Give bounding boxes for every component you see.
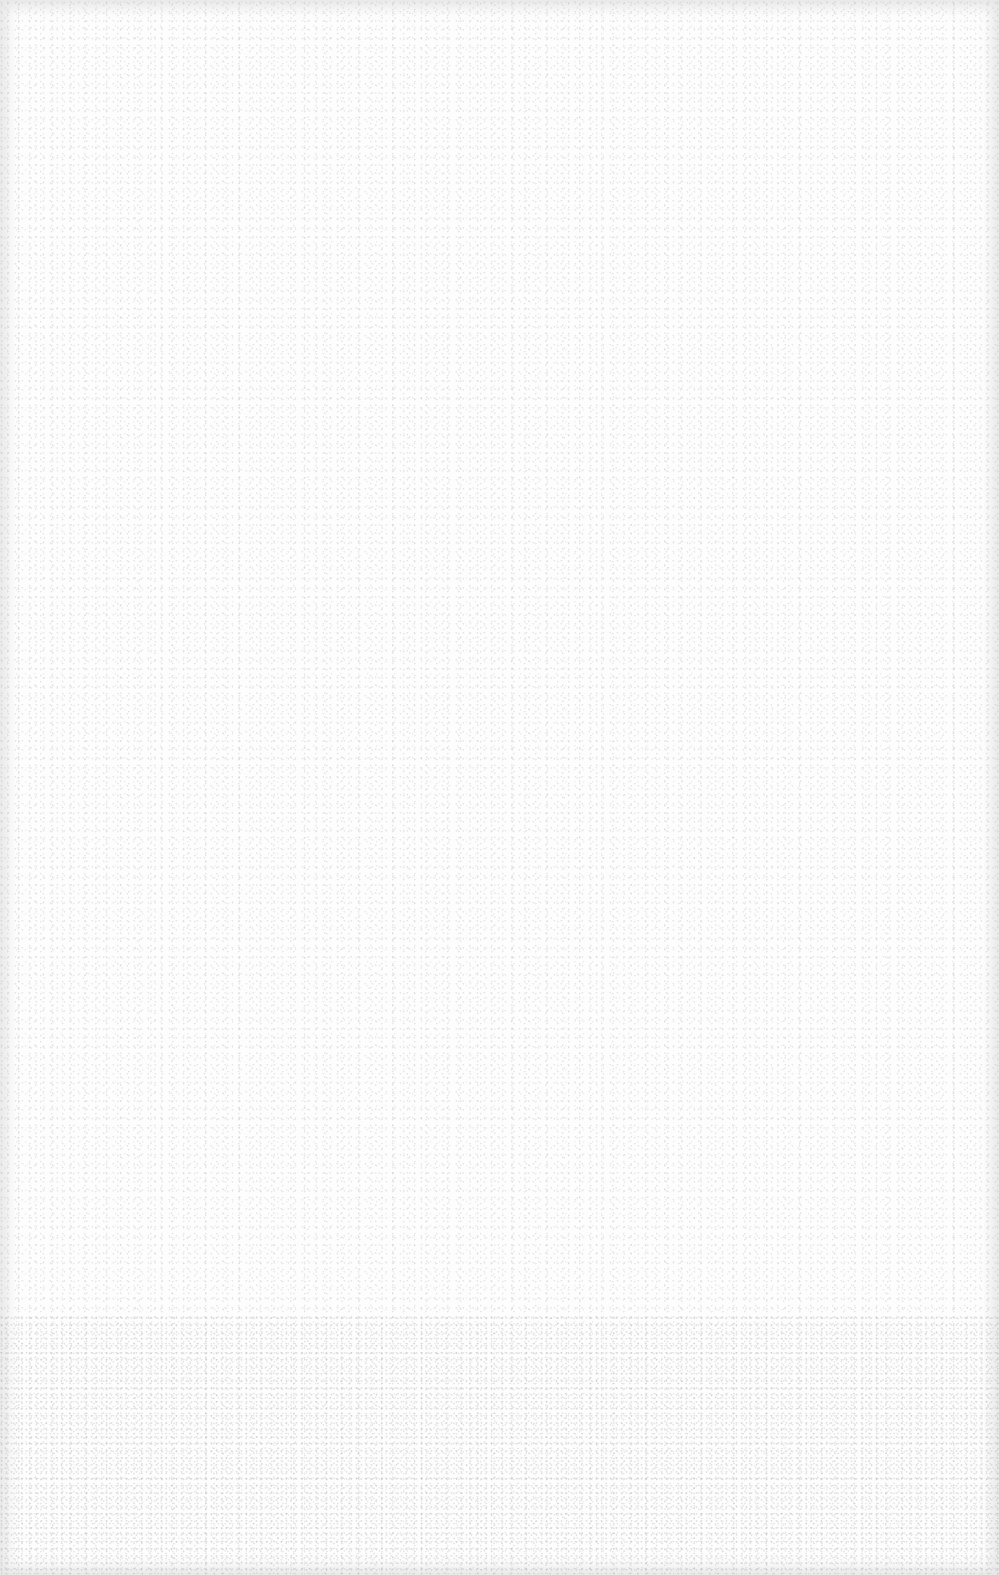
page-content (0, 0, 999, 1575)
blank-page (0, 0, 999, 1575)
